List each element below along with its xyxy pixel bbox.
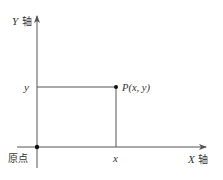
point-p-label: P(x, y) [121, 82, 150, 94]
x-axis-label: X 轴 [187, 153, 208, 165]
x-tick-label: x [112, 152, 118, 164]
origin-point [35, 145, 39, 149]
coordinate-diagram: Y 轴 y P(x, y) 原点 x X 轴 [0, 0, 223, 180]
y-axis-label: Y 轴 [12, 15, 32, 27]
origin-label: 原点 [8, 153, 28, 164]
y-tick-label: y [23, 81, 29, 93]
point-p [114, 85, 118, 89]
